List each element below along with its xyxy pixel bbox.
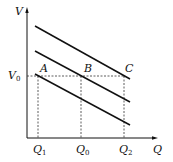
point-c-label: C <box>125 62 134 75</box>
q0-label: Q0 <box>76 143 90 157</box>
x-axis-label: Q <box>153 143 162 156</box>
middle-line <box>35 51 130 102</box>
upper-line <box>35 26 130 79</box>
q1-label: Q1 <box>33 143 47 157</box>
point-b-label: B <box>83 62 92 75</box>
y-axis-label: V <box>15 5 24 18</box>
x-axis-arrow-icon <box>152 136 158 139</box>
y-axis-arrow-icon <box>25 7 28 13</box>
demand-lines <box>35 26 130 125</box>
point-a-label: A <box>39 62 48 75</box>
guide-lines <box>27 76 124 138</box>
lower-line <box>35 74 130 125</box>
demand-curve-diagram: V Q V0 A B C Q1 Q0 Q2 <box>0 0 173 162</box>
q2-label: Q2 <box>119 143 133 157</box>
v0-label: V0 <box>8 69 20 83</box>
